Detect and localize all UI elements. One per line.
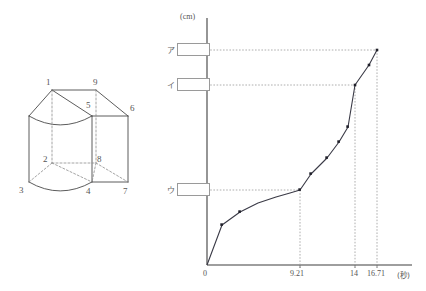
- vertex-label-8: 8: [97, 155, 102, 164]
- answer-row-u[interactable]: ウ: [166, 183, 210, 196]
- x-axis-origin-label: 0: [203, 269, 207, 278]
- data-point: [354, 84, 357, 87]
- y-axis-unit-label: (cm): [180, 12, 195, 21]
- solid-figure-drawing: [0, 0, 180, 291]
- x-tick-label-9-21: 9.21: [290, 269, 304, 278]
- arc-bottom-front: [29, 182, 92, 191]
- hidden-edge-8-7: [96, 163, 128, 182]
- answer-row-a[interactable]: ア: [166, 43, 210, 56]
- data-point-markers: [220, 49, 378, 226]
- screenshot-root: 1 9 5 6 2 8 3 4 7: [0, 0, 426, 291]
- x-tick-label-14: 14: [350, 269, 358, 278]
- vertex-label-2: 2: [43, 155, 48, 164]
- edge-1-leftTop: [29, 90, 52, 116]
- vertex-label-9: 9: [93, 78, 98, 87]
- x-axis-unit-label: (秒): [397, 269, 410, 280]
- answer-label-a: ア: [166, 44, 175, 55]
- vertex-label-3: 3: [19, 186, 24, 195]
- hidden-edge-2-3: [29, 163, 52, 182]
- answer-label-i: イ: [166, 79, 175, 90]
- vertex-label-1: 1: [46, 78, 51, 87]
- data-point: [346, 125, 349, 128]
- edge-9-6: [96, 90, 128, 116]
- arc-top-front: [29, 116, 92, 125]
- answer-box-u[interactable]: [177, 183, 210, 196]
- data-point: [238, 210, 241, 213]
- data-point: [376, 49, 379, 52]
- data-point: [298, 188, 301, 191]
- hidden-edge-8-4: [92, 163, 96, 182]
- x-tick-label-16-71: 16.71: [367, 269, 385, 278]
- answer-row-i[interactable]: イ: [166, 78, 210, 91]
- data-point: [325, 156, 328, 159]
- vertex-label-5: 5: [86, 101, 91, 110]
- data-point: [337, 140, 340, 143]
- vertex-label-6: 6: [130, 104, 135, 113]
- data-point: [220, 223, 223, 226]
- hidden-edge-2-4: [52, 163, 92, 182]
- vertex-label-4: 4: [86, 187, 91, 196]
- line-graph-plot: [180, 0, 426, 291]
- vertex-label-7: 7: [123, 187, 128, 196]
- data-series-line: [207, 50, 377, 265]
- data-point: [368, 64, 371, 67]
- answer-label-u: ウ: [166, 184, 175, 195]
- answer-box-i[interactable]: [177, 78, 210, 91]
- data-point: [309, 172, 312, 175]
- answer-box-a[interactable]: [177, 43, 210, 56]
